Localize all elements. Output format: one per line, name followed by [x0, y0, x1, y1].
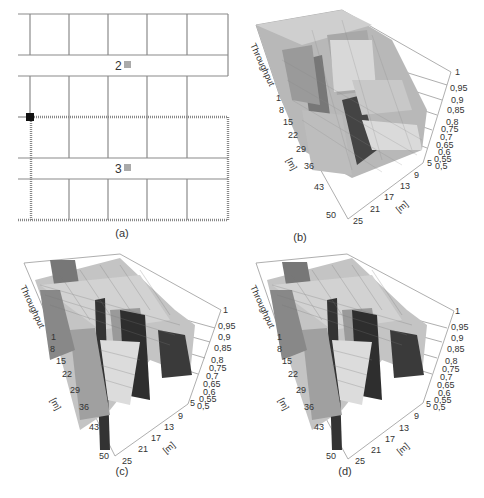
y-axis-ticks: 25 21 17 13 9 5	[122, 398, 195, 466]
svg-text:8: 8	[277, 344, 282, 354]
svg-text:50: 50	[326, 210, 336, 220]
corridor-label-2: 2	[115, 59, 122, 73]
y-axis-label: [m]	[161, 440, 177, 456]
svg-text:22: 22	[62, 369, 72, 379]
svg-text:29: 29	[296, 144, 306, 154]
svg-text:5: 5	[427, 158, 432, 168]
svg-text:21: 21	[370, 204, 380, 214]
svg-text:36: 36	[304, 402, 314, 412]
svg-text:0,9: 0,9	[451, 333, 464, 343]
svg-text:43: 43	[89, 422, 99, 432]
svg-text:15: 15	[283, 117, 293, 127]
x-axis-label: [m]	[48, 396, 63, 412]
corridor-label-3: 3	[115, 162, 122, 176]
svg-text:0,85: 0,85	[447, 344, 465, 354]
svg-text:0,9: 0,9	[451, 95, 464, 105]
svg-text:25: 25	[353, 216, 363, 226]
svg-text:21: 21	[138, 444, 148, 454]
svg-text:0,95: 0,95	[450, 83, 468, 93]
svg-text:0,95: 0,95	[451, 322, 469, 332]
svg-text:36: 36	[79, 402, 89, 412]
panel-c-caption: (c)	[102, 465, 142, 477]
svg-text:0,85: 0,85	[214, 343, 232, 353]
svg-text:50: 50	[326, 451, 336, 461]
z-axis-ticks: 1 0,95 0,9 0,85 0,8 0,75 0,7 0,65 0,6 0,…	[433, 306, 469, 412]
svg-text:9: 9	[414, 411, 419, 421]
svg-text:22: 22	[288, 369, 298, 379]
access-point-2-icon	[124, 61, 131, 68]
y-axis-ticks: 25 21 17 13 9 5	[355, 399, 431, 466]
svg-text:36: 36	[304, 161, 314, 171]
panel-a-caption: (a)	[102, 227, 142, 239]
svg-text:0,5: 0,5	[435, 161, 448, 171]
svg-text:13: 13	[400, 181, 410, 191]
svg-text:15: 15	[56, 356, 66, 366]
svg-text:29: 29	[70, 385, 80, 395]
panel-b-surface-chart: Throughput 1 8 15 22 29 36 43 50 [m] 25 …	[242, 0, 484, 250]
z-axis-ticks: 1 0,95 0,9 0,85 0,8 0,75 0,7 0,65 0,6 0,…	[197, 305, 236, 411]
y-axis-label: [m]	[394, 199, 410, 215]
svg-text:0,5: 0,5	[197, 401, 210, 411]
surface-plot-b: Throughput 1 8 15 22 29 36 43 50 [m] 25 …	[242, 0, 484, 250]
svg-text:13: 13	[399, 423, 409, 433]
y-axis-label: [m]	[395, 441, 411, 457]
svg-text:1: 1	[277, 332, 282, 342]
panel-b-caption: (b)	[280, 231, 320, 243]
throughput-surface	[256, 10, 427, 178]
panel-c-surface-chart: Throughput 1 8 15 22 29 36 43 50 [m] 25 …	[0, 250, 242, 490]
throughput-surface	[267, 258, 427, 450]
panel-a-floorplan: 2 3 (a)	[0, 0, 242, 250]
svg-text:1: 1	[223, 305, 228, 315]
surface-plot-d: Throughput 1 8 15 22 29 36 43 50 [m] 25 …	[242, 250, 484, 490]
x-axis-label: [m]	[284, 156, 299, 172]
transmitter-marker	[26, 113, 34, 121]
svg-text:50: 50	[99, 451, 109, 461]
svg-text:9: 9	[178, 411, 183, 421]
svg-text:17: 17	[151, 433, 161, 443]
svg-text:17: 17	[385, 434, 395, 444]
svg-text:5: 5	[190, 398, 195, 408]
svg-text:29: 29	[296, 385, 306, 395]
panel-d-surface-chart: Throughput 1 8 15 22 29 36 43 50 [m] 25 …	[242, 250, 484, 490]
svg-text:21: 21	[371, 445, 381, 455]
svg-text:43: 43	[314, 182, 324, 192]
svg-text:13: 13	[164, 422, 174, 432]
svg-text:22: 22	[288, 130, 298, 140]
access-point-3-icon	[124, 164, 131, 171]
svg-text:0,5: 0,5	[433, 402, 446, 412]
hatched-region-outline	[18, 117, 228, 220]
svg-text:43: 43	[314, 422, 324, 432]
svg-text:15: 15	[282, 356, 292, 366]
svg-text:0,95: 0,95	[218, 321, 236, 331]
svg-text:1: 1	[455, 306, 460, 316]
svg-text:8: 8	[50, 344, 55, 354]
surface-plot-c: Throughput 1 8 15 22 29 36 43 50 [m] 25 …	[0, 250, 242, 490]
svg-text:8: 8	[279, 105, 284, 115]
svg-text:1: 1	[51, 332, 56, 342]
panel-d-caption: (d)	[325, 465, 365, 477]
svg-text:9: 9	[414, 170, 419, 180]
x-axis-label: [m]	[276, 396, 291, 412]
svg-text:5: 5	[426, 399, 431, 409]
svg-text:1: 1	[455, 67, 460, 77]
svg-text:0,85: 0,85	[447, 105, 465, 115]
svg-text:1: 1	[276, 93, 281, 103]
svg-text:0,9: 0,9	[218, 332, 231, 342]
floorplan-diagram: 2 3	[0, 0, 242, 250]
svg-text:17: 17	[384, 192, 394, 202]
